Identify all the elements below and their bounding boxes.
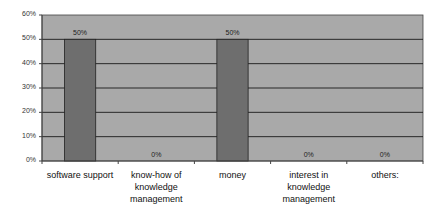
data-label: 50%: [65, 29, 95, 36]
y-tick-label: 50%: [2, 34, 36, 41]
data-label: 50%: [218, 29, 248, 36]
bar: [64, 39, 95, 161]
y-tick-label: 30%: [2, 83, 36, 90]
y-tick-label: 60%: [2, 10, 36, 17]
y-tick-label: 40%: [2, 59, 36, 66]
data-label: 0%: [294, 151, 324, 158]
data-label: 0%: [141, 151, 171, 158]
x-category-label: others:: [340, 169, 430, 181]
y-tick-label: 10%: [2, 132, 36, 139]
data-label: 0%: [370, 151, 400, 158]
y-tick-label: 20%: [2, 107, 36, 114]
bar-chart: 0%10%20%30%40%50%60%50%0%50%0%0%software…: [0, 0, 443, 218]
y-tick-label: 0%: [2, 156, 36, 163]
bar: [217, 39, 248, 161]
